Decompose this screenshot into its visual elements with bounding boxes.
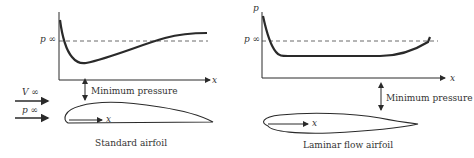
standard-airfoil-title: Standard airfoil — [95, 138, 167, 148]
x-axis-label: x — [450, 73, 455, 83]
p-axis-label: p — [253, 3, 259, 13]
freestream-velocity-label: V ∞ — [22, 87, 39, 97]
standard-pressure-chart — [59, 12, 210, 80]
x-axis-label: x — [212, 75, 217, 85]
airfoil-x-label: x — [312, 118, 317, 128]
p-inf-label: p ∞ — [244, 34, 260, 44]
minimum-pressure-label: Minimum pressure — [386, 93, 473, 103]
minimum-pressure-label: Minimum pressure — [91, 86, 178, 96]
laminar-pressure-chart — [262, 12, 445, 78]
airfoil-x-label: x — [106, 114, 111, 124]
p-inf-label: p ∞ — [40, 34, 56, 44]
diagram-canvas — [0, 0, 474, 158]
pressure-curve — [60, 20, 207, 63]
freestream-pressure-label: p ∞ — [22, 105, 38, 115]
laminar-airfoil-shape — [264, 113, 418, 133]
laminar-airfoil-title: Laminar flow airfoil — [303, 140, 393, 150]
pressure-curve — [263, 16, 430, 56]
